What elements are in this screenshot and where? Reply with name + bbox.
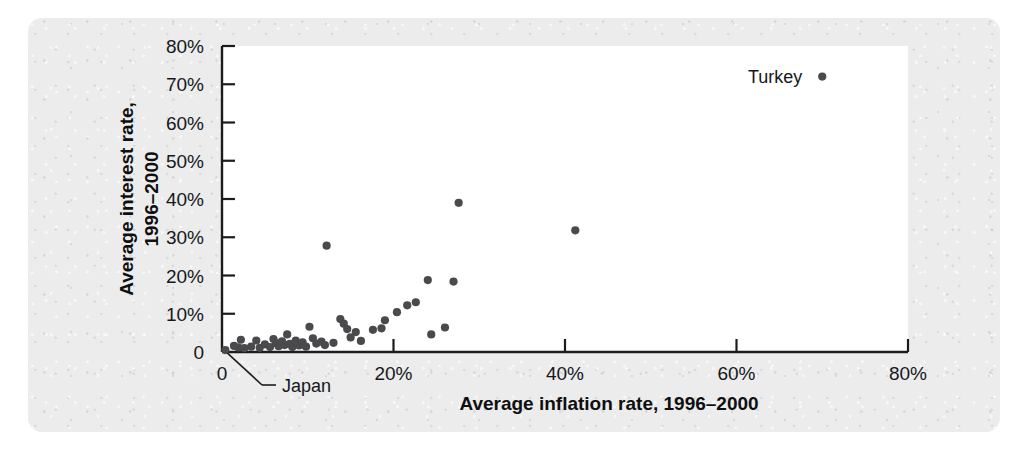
data-point[interactable] [240,344,248,352]
y-tick-label: 60% [166,113,204,134]
data-point[interactable] [369,326,377,334]
x-tick-label: 80% [889,363,927,384]
data-point[interactable] [571,226,579,234]
y-tick-label: 50% [166,151,204,172]
x-tick-label: 20% [374,363,412,384]
data-point[interactable] [283,330,291,338]
x-tick-label: 60% [717,363,755,384]
data-point[interactable] [403,301,411,309]
data-point[interactable] [381,316,389,324]
data-point[interactable] [424,276,432,284]
data-point[interactable] [818,73,826,81]
figure-root: 010%20%30%40%50%60%70%80%020%40%60%80%Av… [0,0,1035,449]
data-point[interactable] [352,328,360,336]
x-tick-label: 0 [217,363,228,384]
annotation-leader-line-japan [227,353,262,385]
data-point[interactable] [237,336,245,344]
data-point[interactable] [329,339,337,347]
data-point[interactable] [441,323,449,331]
data-point[interactable] [412,298,420,306]
y-tick-label: 0 [193,342,204,363]
data-point[interactable] [357,337,365,345]
data-point[interactable] [323,242,331,250]
y-tick-label: 40% [166,189,204,210]
annotation-label-japan: Japan [282,376,331,396]
x-axis-title: Average inflation rate, 1996–2000 [459,393,758,414]
y-tick-label: 20% [166,266,204,287]
y-tick-label: 70% [166,74,204,95]
data-point[interactable] [377,324,385,332]
y-tick-label: 80% [166,36,204,57]
data-points-layer [221,73,826,355]
data-point[interactable] [343,325,351,333]
data-point[interactable] [427,330,435,338]
data-point[interactable] [455,199,463,207]
y-axis-title-line2: 1996–2000 [141,151,162,246]
x-tick-label: 40% [546,363,584,384]
data-point[interactable] [449,278,457,286]
data-point[interactable] [305,323,313,331]
y-tick-label: 10% [166,304,204,325]
axes-layer: 010%20%30%40%50%60%70%80%020%40%60%80%Av… [116,36,927,414]
scatter-chart: 010%20%30%40%50%60%70%80%020%40%60%80%Av… [0,0,1035,449]
annotation-label-turkey: Turkey [748,67,802,87]
y-axis-title-line1: Average interest rate, [116,102,137,296]
data-point[interactable] [252,336,260,344]
y-tick-label: 30% [166,227,204,248]
data-point[interactable] [393,308,401,316]
data-point[interactable] [321,341,329,349]
data-point[interactable] [302,343,310,351]
